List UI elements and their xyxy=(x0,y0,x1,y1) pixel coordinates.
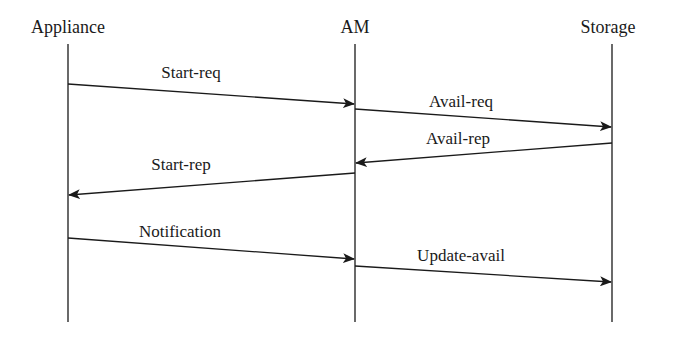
sequence-diagram-canvas xyxy=(0,0,673,340)
message-label-avail-req: Avail-req xyxy=(429,92,493,112)
message-label-notification: Notification xyxy=(139,222,221,242)
actor-appliance: Appliance xyxy=(31,17,105,38)
actor-storage: Storage xyxy=(581,17,636,38)
message-label-avail-rep: Avail-rep xyxy=(426,129,490,149)
arrow-start-rep xyxy=(69,173,355,195)
arrow-start-req xyxy=(68,84,354,104)
actor-am: AM xyxy=(340,17,369,38)
message-label-start-req: Start-req xyxy=(161,63,220,83)
arrow-update-avail xyxy=(355,266,611,282)
message-label-start-rep: Start-rep xyxy=(151,155,210,175)
message-label-update-avail: Update-avail xyxy=(417,246,505,266)
